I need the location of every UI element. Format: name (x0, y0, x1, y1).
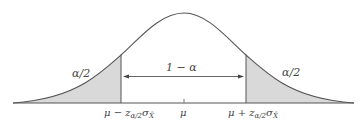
left-tail-shade (13, 55, 121, 103)
arrowhead-left-icon (123, 75, 129, 79)
bell-curve (13, 13, 354, 103)
right-bound-label: μ + zα/2σX̄ (228, 107, 279, 120)
left-bound-label: μ − zα/2σX̄ (104, 107, 155, 120)
arrowhead-right-icon (238, 75, 244, 79)
mu-label: μ (180, 107, 187, 118)
svg-text:μ + zα/2σX̄: μ + zα/2σX̄ (228, 107, 279, 120)
right-tail-shade (246, 55, 354, 103)
right-tail-label: α/2 (282, 66, 300, 79)
svg-text:μ − zα/2σX̄: μ − zα/2σX̄ (104, 107, 155, 120)
confidence-label: 1 − α (166, 61, 197, 74)
left-tail-label: α/2 (72, 67, 90, 80)
normal-curve-diagram: α/2 α/2 1 − α μ μ − zα/2σX̄ μ + zα/2σX̄ (0, 0, 363, 125)
